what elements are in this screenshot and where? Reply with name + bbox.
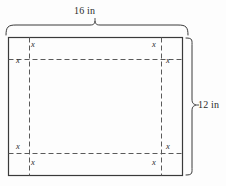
- diagram-canvas: 16 in 12 in x x x x x x x x: [0, 0, 226, 186]
- right-dimension-brace: [186, 38, 196, 175]
- x-label-bottom-right-horizontal: x: [166, 141, 170, 151]
- width-dimension-label: 16 in: [74, 5, 95, 16]
- x-label-top-left-vertical: x: [31, 39, 35, 49]
- x-label-bottom-left-horizontal: x: [16, 141, 20, 151]
- height-dimension-label: 12 in: [198, 99, 219, 110]
- x-label-top-right-horizontal: x: [166, 55, 170, 65]
- x-label-top-right-vertical: x: [152, 39, 156, 49]
- x-label-top-left-horizontal: x: [16, 55, 20, 65]
- x-label-bottom-left-vertical: x: [31, 157, 35, 167]
- top-dimension-brace: [6, 21, 188, 35]
- x-label-bottom-right-vertical: x: [152, 157, 156, 167]
- outer-rectangle: [9, 38, 183, 176]
